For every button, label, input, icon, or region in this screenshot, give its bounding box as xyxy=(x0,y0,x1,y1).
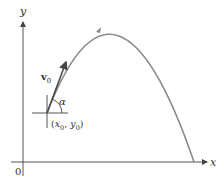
trajectory-curve xyxy=(47,34,194,162)
velocity-vector-label: v0 xyxy=(40,71,51,85)
x-axis-label: x xyxy=(210,156,217,169)
trajectory-diagram: y x 0 α v0 (x0, y0) xyxy=(0,0,224,181)
origin-label: 0 xyxy=(15,166,21,177)
launch-point-label: (x0, y0) xyxy=(51,118,84,132)
y-axis-label: y xyxy=(19,5,27,18)
angle-label: α xyxy=(59,96,66,107)
velocity-subscript: 0 xyxy=(47,77,51,85)
trajectory-direction-arrow xyxy=(96,27,101,33)
paren-close: ) xyxy=(80,118,84,129)
